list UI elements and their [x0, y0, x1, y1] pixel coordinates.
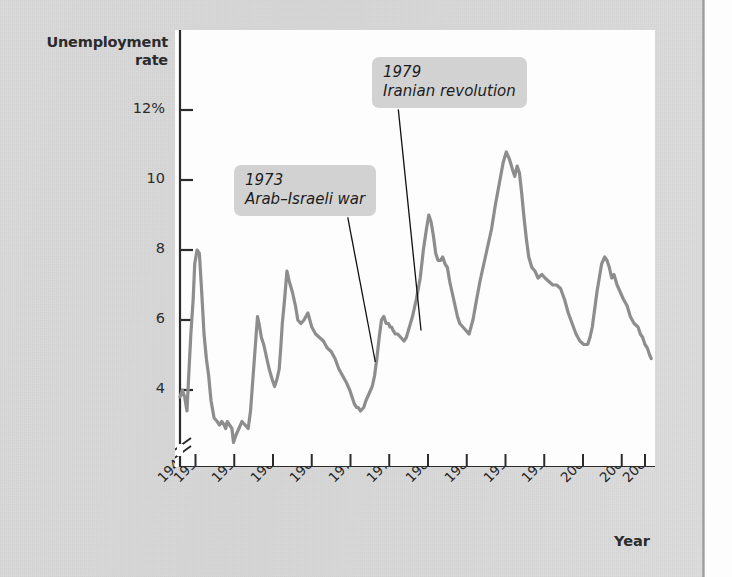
chart-page: Unemploymentrate Year 12%10864 194819501…	[0, 0, 732, 577]
y-axis-tick-label: 12%	[103, 100, 165, 116]
annotation-event: Iranian revolution	[383, 82, 516, 101]
y-axis-title-line-1: Unemployment	[8, 34, 168, 52]
x-axis-title: Year	[614, 533, 650, 549]
y-axis-title: Unemploymentrate	[8, 34, 168, 69]
annotation-year: 1979	[383, 63, 516, 82]
annotation-callout: 1973Arab–Israeli war	[234, 165, 376, 216]
y-axis-tick-label: 6	[103, 310, 165, 326]
page-outer-margin	[705, 0, 732, 577]
y-axis-tick-label: 8	[103, 240, 165, 256]
annotation-callout: 1979Iranian revolution	[372, 57, 527, 108]
annotation-event: Arab–Israeli war	[245, 190, 365, 209]
annotation-year: 1973	[245, 171, 365, 190]
y-axis-tick-label: 4	[103, 380, 165, 396]
y-axis-title-line-2: rate	[8, 52, 168, 70]
y-axis-tick-label: 10	[103, 170, 165, 186]
